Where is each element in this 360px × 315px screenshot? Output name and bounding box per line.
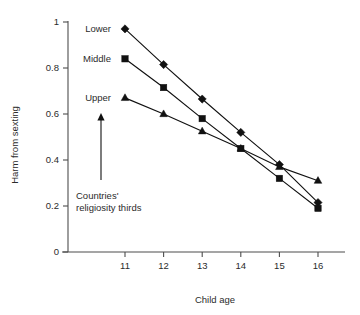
data-point-square-icon	[160, 84, 166, 90]
annotation-line-1: Countries'	[76, 190, 119, 201]
y-axis-title: Harm from sexting	[9, 106, 20, 184]
series-polyline	[125, 98, 318, 181]
x-axis-title: Child age	[195, 294, 235, 305]
x-axis-tick-labels: 111213141516	[120, 260, 323, 271]
series-middle	[122, 56, 321, 212]
x-tick-label: 12	[158, 260, 169, 271]
series-polyline	[125, 59, 318, 209]
chart-legend: LowerMiddleUpper	[83, 23, 111, 103]
y-tick-label: 1	[54, 16, 59, 27]
chart-container: 00.20.40.60.81 111213141516 LowerMiddleU…	[0, 0, 360, 315]
y-tick-label: 0.8	[46, 62, 59, 73]
y-tick-label: 0	[54, 246, 59, 257]
line-chart: 00.20.40.60.81 111213141516 LowerMiddleU…	[0, 0, 360, 315]
data-point-triangle-icon	[121, 94, 129, 101]
x-tick-label: 16	[313, 260, 324, 271]
data-point-square-icon	[315, 205, 321, 211]
y-tick-label: 0.2	[46, 200, 59, 211]
chart-annotations: Countries'religiosity thirds	[76, 113, 142, 213]
y-tick-label: 0.4	[46, 154, 59, 165]
data-series-group	[121, 25, 322, 212]
x-tick-label: 13	[197, 260, 208, 271]
x-tick-label: 14	[236, 260, 247, 271]
legend-label-middle: Middle	[83, 53, 111, 64]
legend-label-upper: Upper	[85, 92, 111, 103]
data-point-square-icon	[199, 115, 205, 121]
y-axis-tick-labels: 00.20.40.60.81	[46, 16, 59, 257]
series-upper	[121, 94, 322, 184]
annotation-line-2: religiosity thirds	[76, 202, 142, 213]
legend-label-lower: Lower	[85, 23, 111, 34]
data-point-square-icon	[276, 175, 282, 181]
series-polyline	[125, 29, 318, 203]
x-tick-label: 11	[120, 260, 130, 271]
data-point-square-icon	[122, 56, 128, 62]
annotation-arrow-head-icon	[97, 113, 104, 121]
series-lower	[121, 25, 322, 207]
x-tick-label: 15	[274, 260, 285, 271]
y-tick-label: 0.6	[46, 108, 59, 119]
